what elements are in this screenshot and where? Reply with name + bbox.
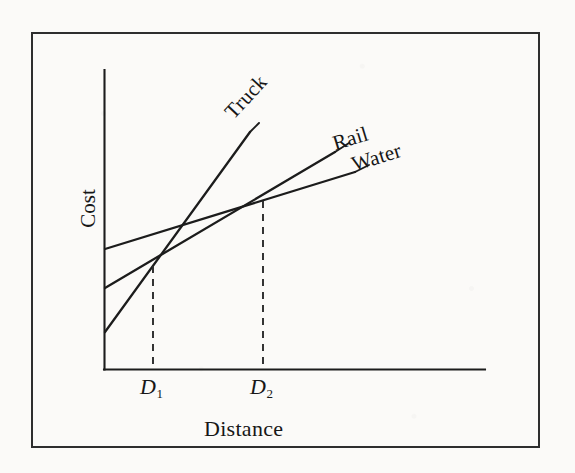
- x-tick-label-d2: D2: [250, 374, 273, 402]
- figure-page: Truck Rail Water Cost Distance D1 D2: [0, 0, 575, 473]
- x-axis-title: Distance: [204, 416, 283, 442]
- chart-canvas: [0, 0, 575, 473]
- x-tick-d1-base: D: [140, 374, 156, 399]
- leader-line-truck: [250, 123, 259, 132]
- series-line-water: [105, 172, 355, 249]
- x-tick-label-d1: D1: [140, 374, 163, 402]
- x-tick-d1-subscript: 1: [156, 386, 163, 401]
- x-tick-d2-base: D: [250, 374, 266, 399]
- y-axis-title: Cost: [76, 189, 101, 228]
- series-line-truck: [105, 132, 250, 332]
- x-tick-d2-subscript: 2: [266, 386, 273, 401]
